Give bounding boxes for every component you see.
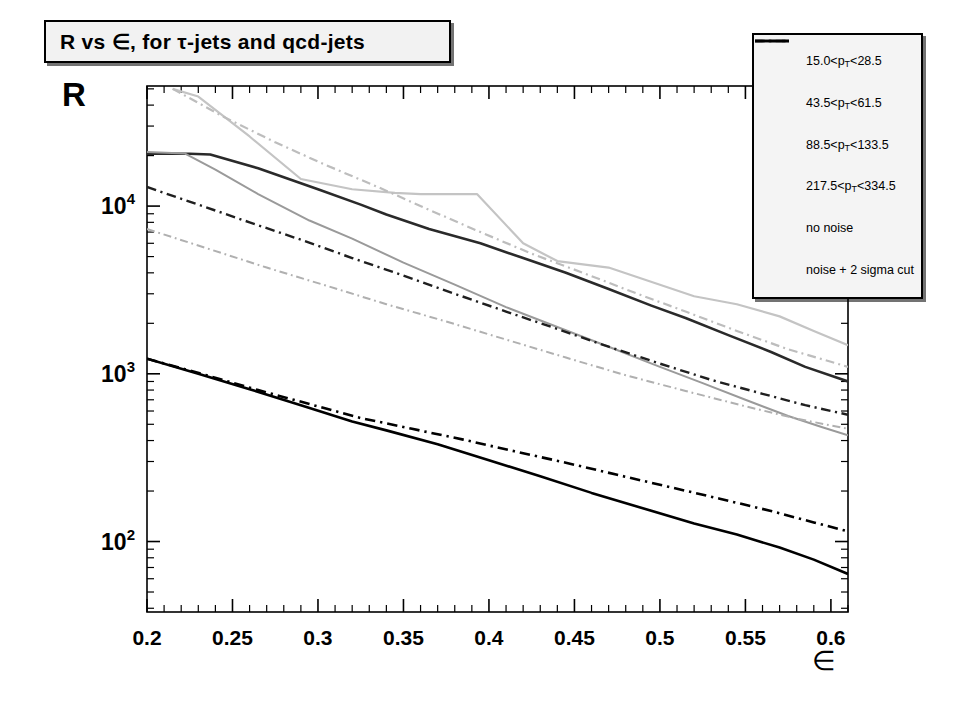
x-axis-title: ∈ [812, 648, 836, 675]
legend-line-sample [762, 222, 798, 234]
legend-line-sample [762, 97, 798, 109]
legend-item-label: noise + 2 sigma cut [806, 263, 914, 277]
y-axis-title: R [62, 78, 86, 111]
y-tick-label: 104 [101, 190, 136, 219]
x-tick-label: 0.4 [474, 626, 504, 649]
series-line [147, 359, 848, 574]
curves-group [147, 89, 848, 574]
series-line [173, 89, 848, 345]
legend-noise-2sigma[interactable]: noise + 2 sigma cut [762, 255, 921, 285]
legend-item-label: 88.5<pT<133.5 [806, 138, 889, 153]
legend-no-noise[interactable]: no noise [762, 213, 921, 243]
legend-item-label: 43.5<pT<61.5 [806, 96, 882, 111]
x-tick-label: 0.5 [645, 626, 675, 649]
series-line [173, 89, 848, 367]
y-tick-exp: 2 [127, 526, 135, 543]
legend-box: 15.0<pT<28.543.5<pT<61.588.5<pT<133.5217… [752, 33, 923, 299]
legend-line-sample [762, 56, 798, 68]
y-tick-base: 10 [101, 193, 127, 219]
legend-line-sample [762, 139, 798, 151]
legend-pt-15-28[interactable]: 15.0<pT<28.5 [762, 47, 921, 77]
x-tick-label: 0.2 [132, 626, 161, 649]
x-tick-label: 0.35 [383, 626, 424, 649]
legend-item-label: 15.0<pT<28.5 [806, 54, 882, 69]
plot-frame [147, 86, 848, 612]
x-tick-label: 0.55 [725, 626, 766, 649]
x-tick-label: 0.3 [303, 626, 332, 649]
y-tick-exp: 3 [127, 358, 135, 375]
legend-item-label: no noise [806, 221, 853, 235]
series-line [147, 154, 848, 382]
legend-pt-88-133[interactable]: 88.5<pT<133.5 [762, 130, 921, 160]
y-tick-label: 102 [101, 526, 135, 555]
legend-line-sample [762, 181, 798, 193]
x-tick-label: 0.25 [212, 626, 253, 649]
y-tick-exp: 4 [127, 190, 136, 207]
legend-pt-217-334[interactable]: 217.5<pT<334.5 [762, 172, 921, 202]
series-line [147, 187, 848, 415]
y-tick-label: 103 [101, 358, 135, 387]
x-tick-label: 0.45 [554, 626, 595, 649]
legend-pt-43-61[interactable]: 43.5<pT<61.5 [762, 88, 921, 118]
series-line [147, 152, 848, 435]
series-line [147, 359, 848, 532]
legend-item-label: 217.5<pT<334.5 [806, 179, 896, 194]
legend-line-sample [762, 264, 798, 276]
y-tick-base: 10 [101, 529, 127, 555]
y-tick-base: 10 [101, 361, 127, 387]
